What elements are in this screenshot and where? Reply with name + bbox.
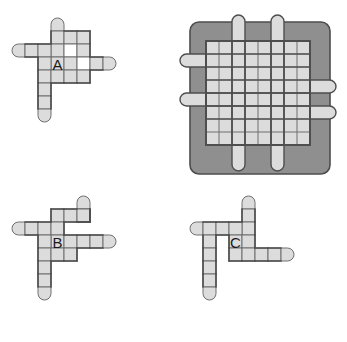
piece-cell (64, 209, 77, 222)
piece-label-c: C (230, 234, 241, 251)
tray-tab-top-1 (271, 15, 284, 41)
tray-tab-right-5 (310, 106, 336, 119)
piece-cell (12, 222, 25, 235)
puzzle-tray[interactable] (180, 15, 336, 174)
piece-cell (38, 248, 51, 261)
piece-cell (12, 44, 25, 57)
tray-tab-right-4 (310, 80, 336, 93)
piece-cell (203, 222, 216, 235)
tray-tab-bottom-7 (271, 145, 284, 171)
piece-cell (203, 274, 216, 287)
piece-cell (203, 248, 216, 261)
piece-cell (38, 109, 51, 122)
piece-cell (51, 31, 64, 44)
piece-cell (38, 235, 51, 248)
piece-cell (103, 235, 116, 248)
piece-hole (64, 44, 77, 57)
piece-cell (242, 209, 255, 222)
puzzle-piece-a[interactable]: A (12, 18, 116, 122)
piece-cell (38, 261, 51, 274)
piece-cell (77, 31, 90, 44)
piece-cell (77, 44, 90, 57)
tray-tab-bottom-6 (232, 145, 245, 171)
piece-cell (51, 18, 64, 31)
piece-cell (38, 287, 51, 300)
tray-tab-top-0 (232, 15, 245, 41)
piece-cell (38, 83, 51, 96)
piece-cell (38, 57, 51, 70)
puzzle-piece-b[interactable]: B (12, 196, 116, 300)
piece-cell (90, 57, 103, 70)
piece-cell (216, 222, 229, 235)
piece-cell (242, 196, 255, 209)
piece-cell (203, 235, 216, 248)
piece-cell (64, 31, 77, 44)
piece-cell (242, 235, 255, 248)
piece-cell (103, 57, 116, 70)
piece-cell (25, 222, 38, 235)
piece-cell (64, 235, 77, 248)
piece-cell (38, 274, 51, 287)
piece-cell (38, 70, 51, 83)
piece-label-a: A (52, 56, 62, 73)
tray-tab-left-2 (180, 54, 206, 67)
piece-cell (64, 248, 77, 261)
piece-cell (190, 222, 203, 235)
piece-cell (77, 235, 90, 248)
piece-cell (281, 248, 294, 261)
piece-hole (77, 57, 90, 70)
tray-tab-left-3 (180, 93, 206, 106)
piece-cell (25, 44, 38, 57)
piece-cell (268, 248, 281, 261)
piece-cell (203, 261, 216, 274)
puzzle-piece-c[interactable]: C (190, 196, 294, 300)
piece-cell (90, 235, 103, 248)
piece-cell (64, 57, 77, 70)
piece-cell (203, 287, 216, 300)
piece-cell (38, 96, 51, 109)
piece-cell (51, 209, 64, 222)
piece-cell (38, 44, 51, 57)
piece-cell (255, 248, 268, 261)
piece-cell (77, 209, 90, 222)
piece-cell (38, 222, 51, 235)
piece-cell (64, 70, 77, 83)
piece-cell (242, 222, 255, 235)
piece-cell (77, 70, 90, 83)
piece-label-b: B (52, 234, 62, 251)
puzzle-figure: ABC (0, 0, 347, 342)
piece-cell (77, 196, 90, 209)
figure-canvas: ABC (0, 0, 347, 342)
piece-cell (242, 248, 255, 261)
